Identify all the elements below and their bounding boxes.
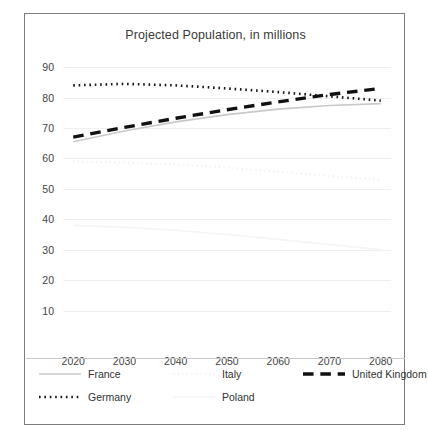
legend-item-poland[interactable]: Poland [173, 391, 255, 403]
series-line-poland [73, 225, 381, 249]
legend-label-poland: Poland [222, 391, 255, 403]
chart-card: Projected Population, in millions 102030… [24, 13, 405, 425]
y-tick-80: 80 [42, 92, 54, 104]
y-tick-30: 30 [42, 244, 54, 256]
y-tick-10: 10 [42, 305, 54, 317]
data-series-layer [63, 58, 391, 341]
legend-swatch-poland [173, 392, 215, 402]
legend-item-germany[interactable]: Germany [39, 391, 131, 403]
plot-area: 102030405060708090 202020302040205020602… [63, 58, 391, 341]
y-tick-40: 40 [42, 213, 54, 225]
legend-swatch-france [39, 369, 81, 379]
legend-item-united-kingdom[interactable]: United Kingdom [303, 368, 427, 380]
series-line-italy [73, 161, 381, 179]
legend-label-united-kingdom: United Kingdom [352, 368, 427, 380]
legend-swatch-germany [39, 392, 81, 402]
y-tick-70: 70 [42, 122, 54, 134]
legend-item-italy[interactable]: Italy [173, 368, 241, 380]
legend-item-france[interactable]: France [39, 368, 121, 380]
y-tick-50: 50 [42, 183, 54, 195]
legend-swatch-italy [173, 369, 215, 379]
screenshot-root: Projected Population, in millions 102030… [0, 0, 428, 440]
legend-label-italy: Italy [222, 368, 241, 380]
chart-legend: France Germany Italy Poland United Kingd… [25, 366, 406, 422]
legend-label-france: France [88, 368, 121, 380]
y-tick-60: 60 [42, 152, 54, 164]
chart-title: Projected Population, in millions [25, 28, 406, 42]
y-tick-20: 20 [42, 274, 54, 286]
series-line-united-kingdom [73, 88, 381, 137]
y-tick-90: 90 [42, 61, 54, 73]
legend-swatch-united-kingdom [303, 369, 345, 379]
legend-label-germany: Germany [88, 391, 131, 403]
legend-divider [26, 358, 405, 359]
